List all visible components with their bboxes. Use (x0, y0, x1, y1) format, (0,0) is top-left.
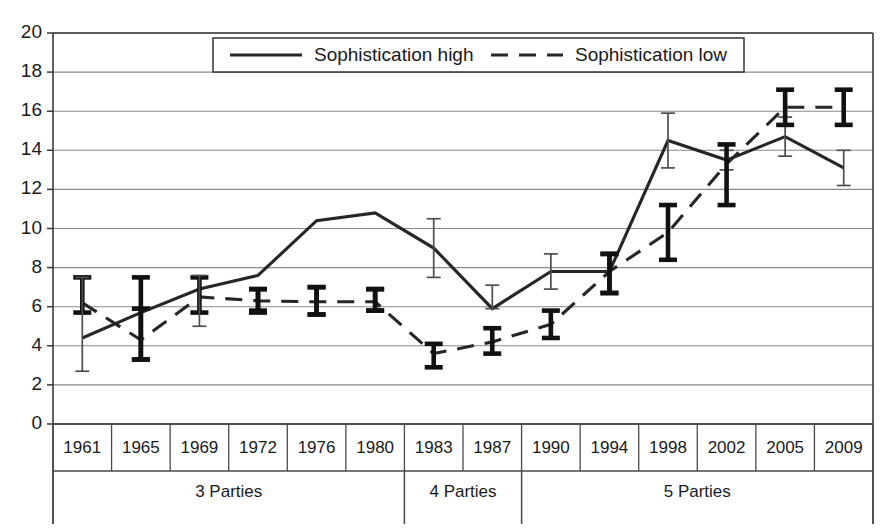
chart-container: 02468101214161820 1961196519691972197619… (0, 0, 889, 531)
x-tick-label-1987: 1987 (473, 438, 511, 457)
y-tick-label-18: 18 (21, 60, 42, 81)
group-label-5-parties: 5 Parties (664, 482, 731, 501)
x-tick-label-1998: 1998 (649, 438, 687, 457)
x-tick-label-1976: 1976 (298, 438, 336, 457)
x-tick-label-1961: 1961 (63, 438, 101, 457)
chart-legend: Sophistication highSophistication low (213, 38, 744, 72)
group-label-4-parties: 4 Parties (429, 482, 496, 501)
y-tick-label-6: 6 (31, 295, 42, 316)
group-label-3-parties: 3 Parties (195, 482, 262, 501)
y-tick-label-4: 4 (31, 334, 42, 355)
x-tick-label-2009: 2009 (825, 438, 863, 457)
legend-label-low: Sophistication low (575, 44, 727, 65)
y-tick-label-20: 20 (21, 21, 42, 42)
y-tick-label-0: 0 (31, 412, 42, 433)
y-tick-label-10: 10 (21, 217, 42, 238)
x-tick-label-2005: 2005 (766, 438, 804, 457)
x-tick-label-1969: 1969 (181, 438, 219, 457)
legend-label-high: Sophistication high (314, 44, 474, 65)
y-tick-label-8: 8 (31, 256, 42, 277)
y-tick-label-14: 14 (21, 138, 43, 159)
x-tick-label-1965: 1965 (122, 438, 160, 457)
y-tick-label-12: 12 (21, 177, 42, 198)
x-tick-label-2002: 2002 (708, 438, 746, 457)
x-tick-label-1983: 1983 (415, 438, 453, 457)
x-tick-label-1994: 1994 (591, 438, 629, 457)
line-chart: 02468101214161820 1961196519691972197619… (0, 0, 889, 531)
y-tick-label-16: 16 (21, 99, 42, 120)
x-tick-label-1990: 1990 (532, 438, 570, 457)
x-tick-label-1980: 1980 (356, 438, 394, 457)
x-tick-label-1972: 1972 (239, 438, 277, 457)
y-tick-label-2: 2 (31, 373, 42, 394)
